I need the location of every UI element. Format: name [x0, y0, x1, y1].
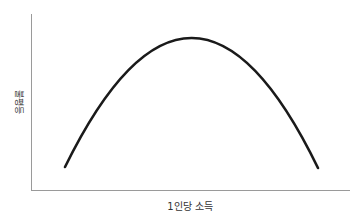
y-axis-label: 불평등: [12, 85, 26, 119]
kuznets-curve: [65, 38, 318, 168]
x-axis-label: 1인당 소득: [140, 198, 240, 213]
inverted-u-chart: 1인당 소득 불평등: [0, 0, 363, 218]
plot-area: [0, 0, 363, 218]
